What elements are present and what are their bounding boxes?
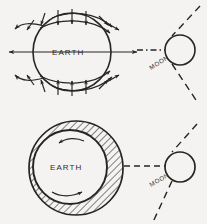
diagram-canvas: EARTH [0,0,207,224]
tidal-diagram-figure: EARTH [0,0,207,224]
bottom-earth-label: EARTH [50,163,82,172]
